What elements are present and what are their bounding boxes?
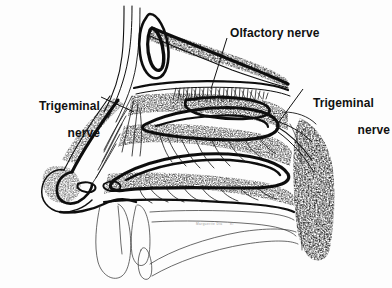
- label-trigeminal-nerve-left: Trigeminal nerve: [12, 86, 100, 154]
- label-trigeminal-nerve-right: Trigeminal nerve: [306, 83, 390, 151]
- artist-signature: Marguerite Dia '87: [196, 222, 234, 226]
- label-trigeminal-right-line1: Trigeminal: [313, 96, 374, 110]
- label-trigeminal-left-line2: nerve: [12, 127, 100, 141]
- anatomy-figure: Olfactory nerve Trigeminal nerve Trigemi…: [0, 0, 392, 288]
- label-trigeminal-left-line1: Trigeminal: [39, 99, 100, 113]
- label-olfactory-nerve: Olfactory nerve: [230, 27, 320, 41]
- label-trigeminal-right-line2: nerve: [306, 124, 390, 138]
